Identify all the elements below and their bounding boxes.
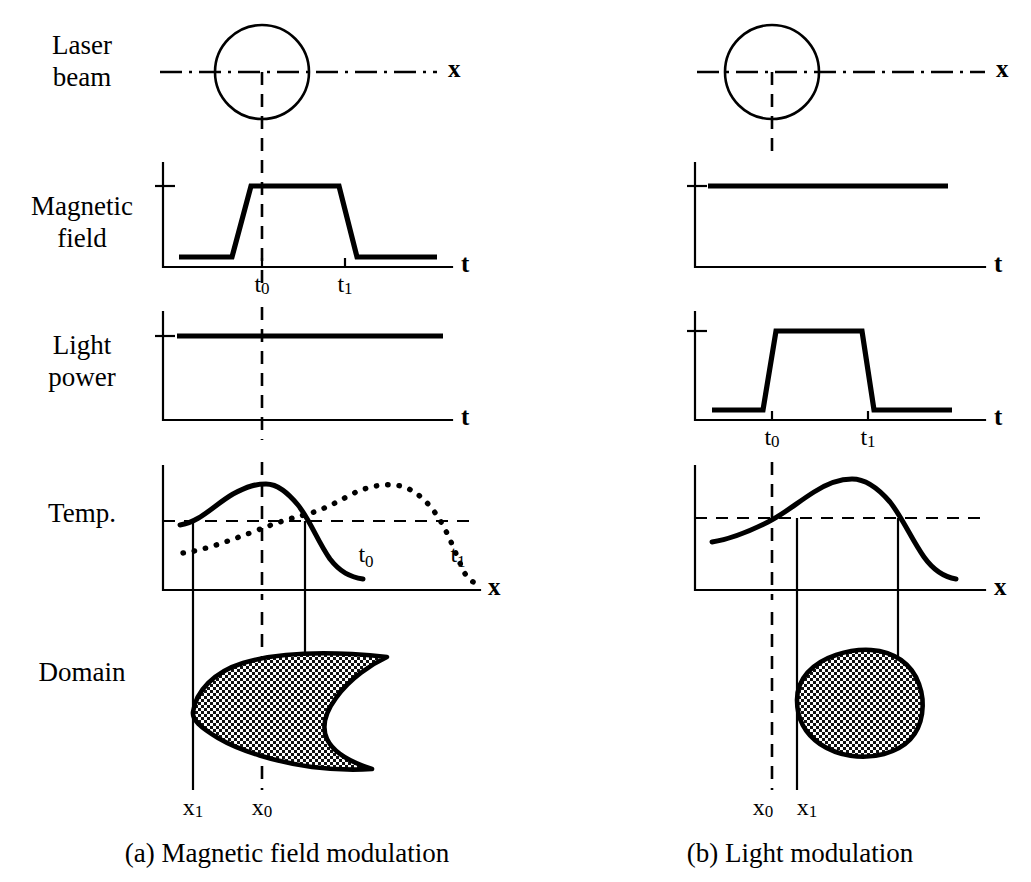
axis-label-x-laser-a: x <box>448 55 461 82</box>
light-power-axes-a <box>163 312 452 420</box>
row-label-domain: Domain <box>39 657 126 687</box>
row-label-laser-beam-line2: beam <box>53 62 111 92</box>
light-power-waveform-b <box>712 331 952 410</box>
panel-b-temperature-plot: x <box>695 466 1007 600</box>
panel-a-domain: x1 x0 <box>183 590 387 821</box>
curve-label-t0-a: t0 <box>358 541 373 571</box>
axis-label-t-light-b: t <box>994 403 1003 430</box>
row-labels: Laser beam Magnetic field Light power Te… <box>31 30 133 687</box>
axis-label-t-magnetic-a: t <box>461 250 470 277</box>
domain-shape-b <box>797 650 923 757</box>
row-label-magnetic-field-line1: Magnetic <box>31 191 133 221</box>
light-power-axes-b <box>695 312 985 420</box>
tick-label-x1-domain-a: x1 <box>183 794 204 821</box>
caption-panel-b: (b) Light modulation <box>687 838 914 868</box>
tick-label-t1-magnetic-a: t1 <box>337 271 352 298</box>
row-label-laser-beam-line1: Laser <box>52 30 112 60</box>
row-label-temp: Temp. <box>48 498 116 528</box>
tick-label-x0-domain-a: x0 <box>252 794 273 821</box>
panel-a-magnetic-field-plot: t t0 t1 <box>155 163 470 298</box>
panel-a-light-power-plot: t <box>155 312 470 430</box>
domain-shape-a <box>193 653 387 769</box>
axis-label-x-temp-a: x <box>488 573 501 600</box>
tick-label-x1-domain-b: x1 <box>797 794 818 821</box>
magnetic-field-axes-a <box>163 163 452 267</box>
panel-a-temperature-plot: x t0 t1 <box>163 466 501 600</box>
caption-panel-a: (a) Magnetic field modulation <box>125 838 450 868</box>
axis-label-t-light-a: t <box>461 403 470 430</box>
panel-a-laser-beam: x <box>160 25 461 119</box>
row-label-light-power-line1: Light <box>53 330 112 360</box>
tick-label-t0-light-b: t0 <box>764 424 779 451</box>
axis-label-x-laser-b: x <box>996 55 1009 82</box>
axis-label-t-magnetic-b: t <box>994 250 1003 277</box>
panel-b-magnetic-field-plot: t <box>687 163 1003 277</box>
tick-label-x0-domain-b: x0 <box>753 794 774 821</box>
curve-label-t1-a: t1 <box>450 541 465 571</box>
temperature-axes-a <box>163 466 480 590</box>
row-label-light-power-line2: power <box>48 362 115 392</box>
panel-b-laser-beam: x <box>697 25 1009 119</box>
figure-canvas: Laser beam Magnetic field Light power Te… <box>0 0 1031 882</box>
tick-label-t1-light-b: t1 <box>860 424 875 451</box>
magnetic-field-axes-b <box>695 163 985 267</box>
temperature-curve-t0-a <box>180 484 363 579</box>
axis-label-x-temp-b: x <box>994 573 1007 600</box>
temperature-curve-b <box>712 479 956 579</box>
magnetic-field-waveform-a <box>179 186 437 257</box>
panel-b-domain: x0 x1 <box>753 590 923 821</box>
row-label-magnetic-field-line2: field <box>57 223 107 253</box>
figure-root: Laser beam Magnetic field Light power Te… <box>0 0 1031 882</box>
panel-b-light-power-plot: t t0 t1 <box>687 312 1003 451</box>
